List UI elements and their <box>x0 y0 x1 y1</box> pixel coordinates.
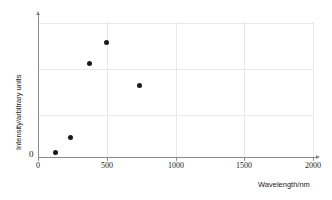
x-tick-label-1500: 1500 <box>229 161 259 170</box>
x-axis-arrow-icon <box>316 155 320 159</box>
scatter-chart: 0 500 1000 1500 2000 0 Wavelength/nm Int… <box>0 0 332 200</box>
y-axis-title: Intensity/arbitrary units <box>14 75 23 150</box>
x-tick-label-500: 500 <box>94 161 120 170</box>
gridline-vertical <box>244 22 245 157</box>
x-axis-line <box>38 157 316 158</box>
data-point <box>53 150 58 155</box>
data-point <box>87 61 92 66</box>
y-tick-label-0: 0 <box>29 149 34 159</box>
data-point <box>137 83 142 88</box>
gridline-vertical <box>176 22 177 157</box>
gridline-vertical <box>313 22 314 157</box>
x-tick-label-1000: 1000 <box>161 161 191 170</box>
x-tick-label-2000: 2000 <box>298 161 328 170</box>
x-tick-label-0: 0 <box>28 161 48 170</box>
y-axis-line <box>38 15 39 157</box>
y-axis-arrow-icon <box>36 11 40 15</box>
data-point <box>104 40 109 45</box>
data-point <box>68 135 73 140</box>
x-axis-title: Wavelength/nm <box>258 180 310 189</box>
